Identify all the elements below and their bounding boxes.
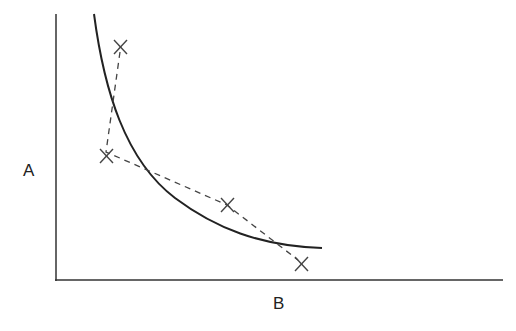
y-axis-label: A (23, 161, 34, 181)
x-marker-1 (114, 40, 127, 54)
indifference-curve (94, 14, 322, 248)
dashed-connector (106, 52, 298, 260)
x-marker-4 (295, 257, 308, 271)
diagram-canvas (0, 0, 516, 331)
x-axis-label: B (273, 294, 284, 314)
x-marker-3 (221, 198, 234, 212)
